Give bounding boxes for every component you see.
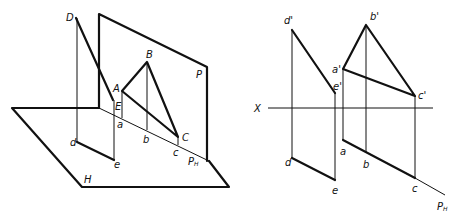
label-c: c xyxy=(173,147,179,158)
label-E: E xyxy=(115,101,122,112)
label-a-top: a xyxy=(340,146,346,157)
label-d-top: d xyxy=(285,157,292,168)
label-b-top: b xyxy=(363,159,369,170)
label-D: D xyxy=(66,12,74,23)
label-X: X xyxy=(253,103,262,114)
label-PH: PH xyxy=(188,156,199,167)
line-d-prime-e-prime xyxy=(292,30,335,93)
label-B: B xyxy=(146,49,153,60)
label-b-prime: b' xyxy=(370,11,379,22)
label-d-prime: d' xyxy=(284,15,293,26)
line-DE xyxy=(76,18,113,100)
line-de-top xyxy=(292,158,335,180)
label-a-prime: a' xyxy=(332,64,341,75)
label-C: C xyxy=(182,132,189,143)
left-pictorial-view: D B A E C P a b c d e H PH xyxy=(12,12,229,187)
label-H: H xyxy=(84,174,92,185)
label-PH-right: PH xyxy=(437,201,448,212)
label-A: A xyxy=(112,83,120,94)
label-c-prime: c' xyxy=(418,90,426,101)
triangle-ABC xyxy=(122,62,178,137)
projection-diagram: D B A E C P a b c d e H PH X d' a' xyxy=(0,0,455,218)
label-b: b xyxy=(143,134,149,145)
line-abc-top xyxy=(343,140,415,178)
right-orthographic-view: X d' a' e' b' c' a b c d e PH xyxy=(253,11,448,212)
label-P: P xyxy=(196,69,203,80)
label-e-top: e xyxy=(332,185,338,196)
label-a: a xyxy=(117,119,123,130)
triangle-a-prime-b-prime-c-prime xyxy=(343,25,415,96)
label-d: d xyxy=(70,137,77,148)
ph-trace-right xyxy=(415,178,445,195)
label-e-prime: e' xyxy=(333,81,342,92)
line-de xyxy=(77,142,114,160)
label-c-top: c xyxy=(412,183,418,194)
label-e: e xyxy=(114,159,120,170)
